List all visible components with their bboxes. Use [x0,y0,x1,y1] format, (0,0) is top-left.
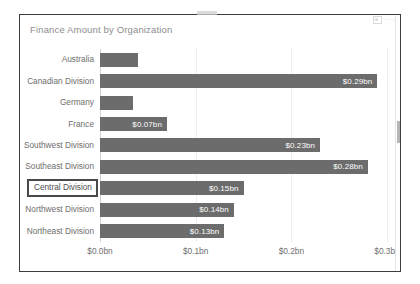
bar-data-label: $0.15bn [209,184,244,193]
bar-data-label: $0.29bn [343,77,378,86]
bar[interactable] [100,53,138,67]
bar-data-label: $0.07bn [132,120,167,129]
more-options-icon[interactable]: ··· [386,16,397,24]
bar-row[interactable]: Central Division$0.15bn [100,178,387,199]
bar-row[interactable]: Southeast Division$0.28bn [100,156,387,177]
bar[interactable]: $0.07bn [100,117,167,131]
x-axis-tick-label: $0.2bn [279,246,304,256]
scrollbar-thumb[interactable] [397,121,401,143]
bar[interactable]: $0.14bn [100,203,234,217]
bar[interactable]: $0.15bn [100,181,244,195]
category-label[interactable]: Canadian Division [27,76,94,87]
gridline [387,49,388,242]
bar-row[interactable]: Southwest Division$0.23bn [100,135,387,156]
bar-chart-visual: ··· Finance Amount by Organization Austr… [19,14,401,272]
page-title: Finance Amount by Organization [30,24,172,35]
bar-data-label: $0.28bn [333,162,368,171]
resize-handle[interactable] [197,11,217,15]
bar-row[interactable]: France$0.07bn [100,113,387,134]
bar-rows: AustraliaCanadian Division$0.29bnGermany… [100,49,387,242]
bar[interactable] [100,96,133,110]
plot-area: AustraliaCanadian Division$0.29bnGermany… [100,49,387,242]
bar[interactable]: $0.13bn [100,224,224,238]
category-label[interactable]: Germany [60,97,94,108]
bar-row[interactable]: Northwest Division$0.14bn [100,199,387,220]
category-label[interactable]: Australia [62,54,94,65]
bar[interactable]: $0.29bn [100,74,377,88]
category-label[interactable]: Southeast Division [25,161,94,172]
vertical-scrollbar[interactable] [395,16,400,272]
x-axis-tick-label: $0.0bn [87,246,112,256]
category-label[interactable]: Southwest Division [24,140,94,151]
bar-row[interactable]: Australia [100,49,387,70]
bar-data-label: $0.14bn [199,205,234,214]
x-axis: $0.0bn$0.1bn$0.2bn$0.3bn [100,246,387,262]
bar-data-label: $0.13bn [190,227,225,236]
x-axis-tick-label: $0.1bn [183,246,208,256]
bar-row[interactable]: Canadian Division$0.29bn [100,70,387,91]
bar[interactable]: $0.28bn [100,160,368,174]
bar-row[interactable]: Germany [100,92,387,113]
focus-mode-icon[interactable] [373,16,382,24]
visual-header-icons: ··· [373,16,397,24]
bar[interactable]: $0.23bn [100,138,320,152]
category-label[interactable]: Northwest Division [25,204,94,215]
bar-data-label: $0.23bn [285,141,320,150]
bar-row[interactable]: Northeast Division$0.13bn [100,221,387,242]
category-label[interactable]: Central Division [27,179,98,197]
category-label[interactable]: Northeast Division [27,226,94,237]
category-label[interactable]: France [68,119,94,130]
